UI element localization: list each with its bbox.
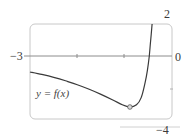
- y-max-label: 2: [164, 8, 170, 20]
- y-min-label: −4: [156, 124, 169, 136]
- function-graph: [0, 0, 187, 137]
- x-max-label: 0: [175, 51, 181, 63]
- minimum-point-marker: [128, 105, 133, 110]
- function-label: y = f(x): [36, 87, 69, 99]
- x-min-label: −3: [10, 50, 23, 62]
